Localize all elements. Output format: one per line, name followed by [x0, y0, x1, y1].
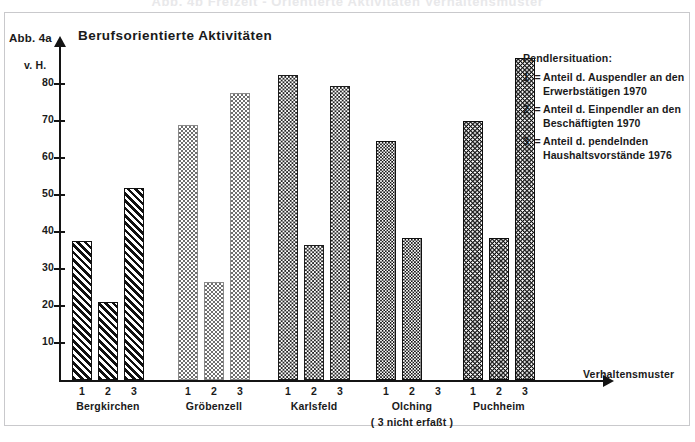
- legend-description: Anteil d. pendelnden Haushaltsvorstände …: [543, 135, 691, 162]
- bar: [402, 238, 422, 380]
- bar-number-label: 1: [179, 385, 197, 397]
- x-axis-arrow-icon: [603, 375, 614, 387]
- legend-entry: 2=Anteil d. Einpendler an den Beschäftig…: [523, 103, 691, 130]
- y-tick-mark: [54, 83, 65, 85]
- legend-equals-sign: =: [532, 103, 543, 130]
- legend-equals-sign: =: [532, 135, 543, 162]
- bar-number-label: 1: [464, 385, 482, 397]
- bar-number-label: 1: [73, 385, 91, 397]
- x-axis-line: [59, 380, 606, 382]
- y-tick-label: 20: [26, 298, 54, 310]
- y-tick-label: 30: [26, 261, 54, 273]
- bar-number-label: 3: [429, 385, 447, 397]
- bar-number-label: 2: [99, 385, 117, 397]
- bar-number-label: 2: [490, 385, 508, 397]
- bar: [204, 282, 224, 380]
- bar-number-label: 2: [305, 385, 323, 397]
- legend-rows: 1=Anteil d. Auspendler an den Erwerbstät…: [523, 71, 691, 162]
- category-label: Puchheim: [433, 400, 565, 412]
- y-tick-mark: [54, 157, 65, 159]
- bar: [278, 75, 298, 380]
- bar: [178, 125, 198, 380]
- bar: [230, 93, 250, 380]
- y-axis-arrow-icon: [54, 36, 66, 47]
- bar-number-label: 3: [516, 385, 534, 397]
- bar-number-label: 2: [403, 385, 421, 397]
- bar: [72, 241, 92, 380]
- bar: [463, 121, 483, 380]
- bar: [124, 188, 144, 380]
- bar: [489, 238, 509, 380]
- bar-number-label: 3: [331, 385, 349, 397]
- legend-key: 2: [523, 103, 532, 130]
- bar-number-label: 1: [279, 385, 297, 397]
- bar: [304, 245, 324, 380]
- legend: Pendlersituation: 1=Anteil d. Auspendler…: [523, 52, 691, 167]
- bar-number-label: 2: [205, 385, 223, 397]
- bar: [330, 86, 350, 380]
- y-tick-label: 80: [26, 76, 54, 88]
- legend-description: Anteil d. Einpendler an den Beschäftigte…: [543, 103, 691, 130]
- y-tick-mark: [54, 305, 65, 307]
- legend-entry: 1=Anteil d. Auspendler an den Erwerbstät…: [523, 71, 691, 98]
- y-tick-label: 40: [26, 224, 54, 236]
- y-tick-mark: [54, 194, 65, 196]
- bar-number-label: 3: [231, 385, 249, 397]
- bar: [376, 141, 396, 380]
- bar-number-label: 3: [125, 385, 143, 397]
- legend-key: 3: [523, 135, 532, 162]
- legend-key: 1: [523, 71, 532, 98]
- y-axis-line: [59, 44, 61, 382]
- legend-entry: 3=Anteil d. pendelnden Haushaltsvorständ…: [523, 135, 691, 162]
- bar: [98, 302, 118, 380]
- y-tick-label: 50: [26, 187, 54, 199]
- y-tick-mark: [54, 342, 65, 344]
- y-tick-label: 70: [26, 113, 54, 125]
- legend-title: Pendlersituation:: [523, 52, 691, 64]
- y-tick-label: 60: [26, 150, 54, 162]
- y-tick-mark: [54, 120, 65, 122]
- legend-equals-sign: =: [532, 71, 543, 98]
- category-note: ( 3 nicht erfaßt ): [336, 416, 488, 428]
- y-tick-mark: [54, 231, 65, 233]
- y-tick-mark: [54, 268, 65, 270]
- legend-description: Anteil d. Auspendler an den Erwerbstätig…: [543, 71, 691, 98]
- y-tick-label: 10: [26, 335, 54, 347]
- bar-number-label: 1: [377, 385, 395, 397]
